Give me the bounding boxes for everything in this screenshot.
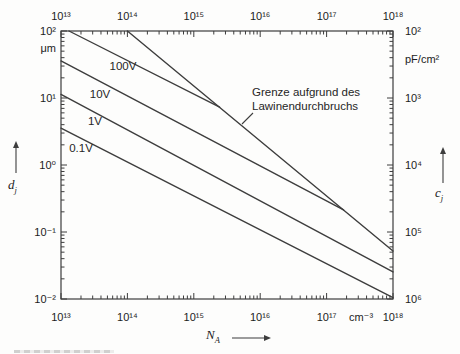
x-tick-label-top: 10¹⁷	[317, 10, 337, 22]
y-right-tick-label: 10⁵	[405, 226, 422, 238]
curve-avalanche-limit	[127, 31, 393, 251]
curve-10V	[61, 61, 344, 210]
y-left-unit-label: μm	[18, 42, 56, 54]
y-right-tick-label: 10⁶	[405, 293, 422, 305]
annotation-line-2: Lawinendurchbruchs	[252, 100, 360, 114]
y-left-tick-label: 10⁻²	[18, 293, 56, 306]
y-right-tick-label: 10³	[405, 92, 421, 104]
curve-10V-label: 10V	[90, 88, 110, 100]
y-left-tick-label: 10¹	[18, 92, 56, 104]
y-right-axis-symbol: cj	[435, 185, 443, 203]
left-axis-arrow-icon	[13, 141, 19, 148]
figure-container: μm pF/cm² cm⁻³ dj cj NA Grenze aufgrund …	[0, 0, 460, 354]
avalanche-limit-annotation: Grenze aufgrund des Lawinendurchbruchs	[252, 86, 360, 113]
right-axis-arrow-icon	[440, 147, 446, 154]
x-tick-label-bottom: 10¹⁶	[250, 311, 270, 323]
x-tick-label-top: 10¹⁵	[184, 10, 204, 22]
x-tick-label-top: 10¹⁴	[117, 10, 138, 22]
annotation-leader-line	[242, 113, 253, 124]
symbol-N: N	[206, 327, 215, 342]
y-left-axis-symbol: dj	[8, 177, 17, 195]
x-tick-label-bottom: 10¹³	[51, 311, 71, 323]
y-left-tick-label: 10⁻¹	[18, 226, 56, 239]
x-unit-label: cm⁻³	[349, 311, 373, 324]
x-tick-label-bottom: 10¹⁸	[383, 311, 404, 323]
curve-1V	[61, 94, 393, 272]
y-right-unit-label: pF/cm²	[405, 53, 439, 65]
symbol-c-sub: j	[441, 193, 443, 203]
x-tick-label-top: 10¹⁸	[383, 10, 404, 22]
annotation-line-1: Grenze aufgrund des	[252, 86, 360, 100]
symbol-N-sub: A	[215, 335, 220, 345]
y-right-tick-label: 10²	[405, 25, 421, 37]
x-axis-symbol: NA	[206, 327, 220, 345]
cropped-caption-artifact	[14, 350, 114, 353]
symbol-d-sub: j	[15, 185, 17, 195]
curve-1V-label: 1V	[88, 115, 102, 127]
x-tick-label-bottom: 10¹⁴	[117, 311, 138, 323]
curve-0.1V-label: 0.1V	[69, 142, 93, 154]
curve-0.1V	[61, 128, 393, 297]
y-right-tick-label: 10⁴	[405, 159, 422, 171]
y-left-tick-label: 10²	[18, 25, 56, 37]
y-left-tick-label: 10⁰	[18, 159, 56, 172]
x-tick-label-bottom: 10¹⁷	[317, 311, 337, 323]
chart-canvas	[0, 0, 460, 354]
x-tick-label-top: 10¹⁶	[250, 10, 270, 22]
x-tick-label-top: 10¹³	[51, 10, 71, 22]
x-tick-label-bottom: 10¹⁵	[184, 311, 204, 323]
curve-100V-label: 100V	[110, 60, 137, 72]
x-axis-arrow-icon	[264, 335, 271, 341]
